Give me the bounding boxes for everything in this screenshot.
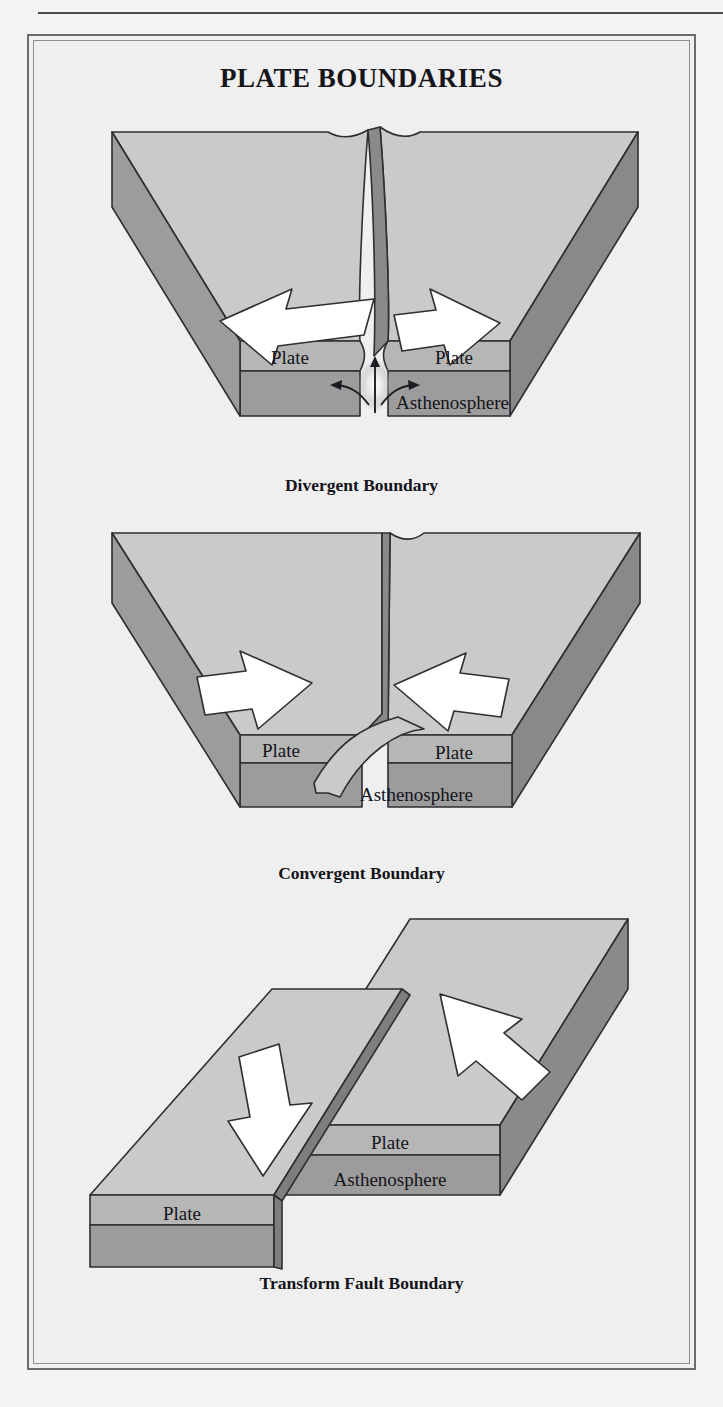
page-canvas: PLATE BOUNDARIES (0, 0, 723, 1407)
label-asthenosphere: Asthenosphere (333, 1169, 446, 1190)
convergent-block-svg: Plate Plate Asthenosphere (72, 511, 652, 861)
divergent-block-svg: Plate Plate Asthenosphere (72, 113, 652, 473)
diagram-convergent: Plate Plate Asthenosphere Convergent Bou… (34, 511, 689, 884)
label-asthenosphere: Asthenosphere (360, 784, 473, 805)
top-rule (38, 12, 723, 14)
figure-frame-outer: PLATE BOUNDARIES (27, 34, 696, 1370)
fault-wall (274, 1195, 282, 1269)
diagram-transform: Plate Asthenosphere Plate Transform Faul… (34, 881, 689, 1294)
label-asthenosphere: Asthenosphere (396, 392, 509, 413)
left-asthenosphere-front (240, 371, 360, 416)
caption-transform: Transform Fault Boundary (34, 1273, 689, 1294)
label-plate-right: Plate (371, 1132, 409, 1153)
transform-block-svg: Plate Asthenosphere Plate (72, 881, 652, 1271)
caption-divergent: Divergent Boundary (34, 475, 689, 496)
figure-title: PLATE BOUNDARIES (34, 63, 689, 94)
figure-frame-inner: PLATE BOUNDARIES (33, 40, 690, 1364)
label-plate-right: Plate (435, 347, 473, 368)
label-plate-left: Plate (271, 347, 309, 368)
diagram-divergent: Plate Plate Asthenosphere Divergent Boun… (34, 113, 689, 496)
label-plate-left: Plate (262, 740, 300, 761)
label-plate-left: Plate (163, 1203, 201, 1224)
label-plate-right: Plate (435, 742, 473, 763)
